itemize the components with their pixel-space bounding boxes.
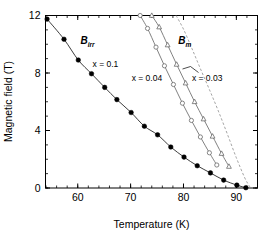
y-tick-label: 4 [35, 124, 41, 136]
annotation-leader-line [183, 67, 199, 73]
series-lines-group [47, 16, 250, 188]
data-point-marker [207, 151, 211, 155]
data-point-marker [154, 45, 158, 49]
chart-annotations-group: BirrBmx = 0.1x = 0.04x = 0.03 [80, 35, 222, 83]
series-markers-group [45, 13, 248, 190]
data-point-marker [129, 110, 134, 115]
data-point-marker [174, 62, 179, 66]
data-point-marker [208, 171, 213, 176]
data-point-marker [145, 26, 149, 30]
data-point-marker [162, 64, 166, 68]
data-point-marker [210, 134, 215, 138]
plot-frame [46, 16, 258, 189]
data-point-marker [171, 82, 175, 86]
x-axis-title: Temperature (K) [114, 218, 190, 230]
data-point-marker [189, 118, 193, 122]
x-tick-label: 60 [72, 191, 84, 203]
data-point-marker [168, 145, 173, 150]
x-axis-tick-labels: 60708090 [72, 191, 242, 203]
x-axis-major-ticks [78, 16, 237, 189]
y-tick-label: 0 [35, 182, 41, 194]
data-point-marker [89, 71, 94, 76]
series-line [47, 19, 246, 188]
data-point-marker [142, 124, 147, 129]
data-point-marker [235, 183, 240, 188]
data-point-marker [165, 42, 170, 46]
series-symbol-annotation: Birr [80, 35, 95, 48]
y-tick-label: 8 [35, 67, 41, 79]
data-point-marker [102, 85, 107, 90]
y-tick-label: 12 [29, 9, 41, 21]
x-tick-label: 80 [178, 191, 190, 203]
data-point-marker [195, 163, 200, 168]
data-point-marker [244, 185, 249, 190]
series-composition-annotation: x = 0.1 [93, 59, 119, 69]
data-point-marker [180, 101, 184, 105]
data-point-marker [227, 164, 232, 168]
x-tick-label: 70 [125, 191, 137, 203]
figure-container: 60708090 04812 BirrBmx = 0.1x = 0.04x = … [0, 0, 273, 233]
data-point-marker [192, 99, 197, 103]
y-axis-major-ticks [46, 16, 258, 189]
data-point-marker [76, 58, 81, 63]
data-point-marker [215, 163, 219, 167]
series-line [152, 16, 229, 167]
y-axis-minor-ticks [46, 16, 258, 189]
data-point-marker [198, 135, 202, 139]
series-composition-annotation: x = 0.03 [192, 73, 223, 83]
y-axis-tick-labels: 04812 [29, 9, 41, 194]
data-point-marker [183, 80, 188, 84]
magnetic-field-vs-temperature-chart: 60708090 04812 BirrBmx = 0.1x = 0.04x = … [0, 0, 273, 233]
series-symbol-annotation: Bm [178, 35, 191, 48]
x-tick-label: 90 [231, 191, 243, 203]
data-point-marker [221, 178, 226, 183]
data-point-marker [62, 37, 67, 42]
data-point-marker [138, 13, 142, 17]
x-axis-minor-ticks [46, 16, 257, 189]
data-point-marker [201, 116, 206, 120]
data-point-marker [155, 133, 160, 138]
data-point-marker [157, 24, 162, 28]
series-composition-annotation: x = 0.04 [132, 73, 163, 83]
y-axis-title: Magnetic field (T) [2, 61, 14, 142]
data-point-marker [45, 17, 50, 22]
data-point-marker [182, 155, 187, 160]
data-point-marker [115, 97, 120, 102]
data-point-marker [219, 151, 224, 155]
